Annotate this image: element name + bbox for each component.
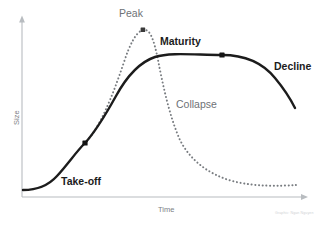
lifecycle-curve <box>23 54 295 190</box>
label-decline: Decline <box>274 61 311 72</box>
maturity-marker <box>219 52 224 57</box>
label-collapse: Collapse <box>176 99 217 110</box>
label-maturity: Maturity <box>160 36 201 47</box>
peak-marker <box>141 27 146 32</box>
label-peak: Peak <box>119 8 143 19</box>
y-axis-arrowhead <box>19 16 25 23</box>
label-takeoff: Take-off <box>61 176 101 187</box>
takeoff-marker <box>82 140 87 145</box>
graphic-credit: Graphic: Ngan Nguyen <box>275 212 314 216</box>
lifecycle-curve-group <box>23 52 295 190</box>
lifecycle-curve-chart: Peak Maturity Decline Collapse Take-off … <box>0 0 325 230</box>
x-axis-arrowhead <box>301 194 308 200</box>
x-axis-label: Time <box>158 206 174 214</box>
y-axis-label: Size <box>13 110 21 125</box>
